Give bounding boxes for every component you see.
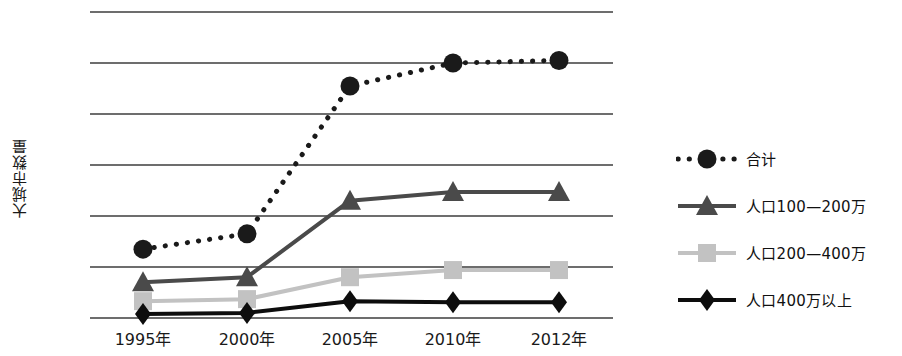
chart-legend: 合计人口100—200万人口200—400万人口400万以上 (676, 135, 902, 323)
legend-label: 合计 (738, 148, 777, 169)
legend-item[interactable]: 合计 (676, 135, 902, 182)
circle-marker-icon (444, 54, 463, 73)
legend-key (676, 240, 738, 266)
x-axis-tick-label: 2012年 (531, 326, 588, 350)
legend-label: 人口200—400万 (738, 242, 866, 263)
legend-key (676, 193, 738, 219)
circle-marker-icon (134, 240, 153, 259)
legend-key-icon (676, 287, 738, 313)
legend-label: 人口100—200万 (738, 195, 866, 216)
legend-item[interactable]: 人口400万以上 (676, 276, 902, 323)
legend-item[interactable]: 人口100—200万 (676, 182, 902, 229)
plot-svg (90, 0, 613, 356)
diamond-marker-icon (551, 291, 567, 313)
legend-key-icon (676, 240, 738, 266)
circle-marker-icon (341, 76, 360, 95)
circle-marker-icon (550, 51, 569, 70)
x-axis-tick-label: 1995年 (115, 326, 172, 350)
y-axis-title-label: 大城市数量 (9, 138, 30, 218)
circle-marker-icon (238, 224, 257, 243)
legend-item[interactable]: 人口200—400万 (676, 229, 902, 276)
x-axis-tick-label: 2000年 (219, 326, 276, 350)
legend-key-icon (676, 146, 738, 172)
legend-key (676, 146, 738, 172)
series-markers (132, 51, 570, 325)
legend-label: 人口400万以上 (738, 289, 852, 310)
square-marker-icon (341, 268, 359, 286)
line-chart: 大城市数量 1995年2000年2005年2010年2012年 合计人口100—… (0, 0, 902, 356)
diamond-marker-icon (445, 291, 461, 313)
diamond-marker-icon (699, 289, 715, 311)
legend-key-icon (676, 193, 738, 219)
y-axis-title: 大城市数量 (2, 0, 36, 356)
square-marker-icon (550, 261, 568, 279)
x-axis-tick-labels: 1995年2000年2005年2010年2012年 (90, 326, 613, 354)
x-axis-tick-label: 2005年 (322, 326, 379, 350)
legend-key (676, 287, 738, 313)
x-axis-tick-label: 2010年 (425, 326, 482, 350)
square-marker-icon (698, 244, 716, 262)
circle-marker-icon (698, 149, 717, 168)
square-marker-icon (444, 261, 462, 279)
diamond-marker-icon (342, 290, 358, 312)
plot-area (90, 0, 613, 356)
